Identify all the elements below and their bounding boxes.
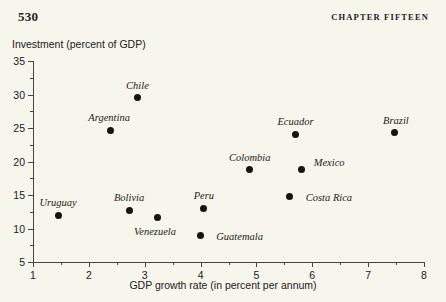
y-axis-title: Investment (percent of GDP) [12,38,146,50]
y-axis-minor-tick [30,111,33,112]
y-axis-tick [28,128,33,129]
x-axis-tick [424,262,425,267]
x-axis-tick [312,262,313,267]
x-axis-tick-label: 1 [30,269,36,281]
data-point [134,94,141,101]
x-axis-tick-label: 4 [198,269,204,281]
y-axis-tick-label: 20 [13,156,25,168]
y-axis-tick [28,95,33,96]
x-axis-tick [145,262,146,267]
data-point [126,207,133,214]
data-point-label: Peru [194,190,214,201]
y-axis-tick [28,162,33,163]
x-axis-tick-label: 8 [421,269,427,281]
data-point-label: Venezuela [134,225,176,236]
data-point-label: Colombia [229,151,270,162]
x-axis-tick [201,262,202,267]
y-axis-line [33,61,34,262]
data-point [286,193,293,200]
y-axis-minor-tick [30,145,33,146]
y-axis-tick-label: 10 [13,223,25,235]
x-axis-minor-tick [173,262,174,265]
x-axis-minor-tick [229,262,230,265]
data-point [107,127,114,134]
scatter-chart: Investment (percent of GDP) GDP growth r… [0,0,446,302]
y-axis-tick-label: 5 [19,256,25,268]
plot-area: 510152025303512345678UruguayArgentinaBol… [33,61,424,262]
data-point-label: Mexico [314,156,345,167]
data-point [200,205,207,212]
x-axis-minor-tick [340,262,341,265]
data-point-label: Guatemala [216,231,263,242]
data-point-label: Uruguay [39,197,76,208]
x-axis-tick-label: 6 [309,269,315,281]
x-axis-minor-tick [61,262,62,265]
x-axis-tick-label: 7 [365,269,371,281]
x-axis-tick-label: 2 [86,269,92,281]
textbook-page: 530 CHAPTER FIFTEEN Investment (percent … [0,0,446,302]
data-point [154,214,161,221]
data-point-label: Chile [126,79,149,90]
data-point-label: Argentina [88,112,130,123]
x-axis-tick-label: 3 [142,269,148,281]
y-axis-tick-label: 35 [13,55,25,67]
x-axis-tick-label: 5 [254,269,260,281]
y-axis-tick [28,61,33,62]
data-point-label: Ecuador [277,116,313,127]
y-axis-tick-label: 25 [13,122,25,134]
x-axis-minor-tick [117,262,118,265]
y-axis-minor-tick [30,78,33,79]
y-axis-tick [28,195,33,196]
data-point [197,232,204,239]
x-axis-minor-tick [396,262,397,265]
data-point [298,166,305,173]
y-axis-minor-tick [30,245,33,246]
y-axis-minor-tick [30,178,33,179]
data-point [292,131,299,138]
x-axis-title: GDP growth rate (in percent per annum) [0,279,446,291]
data-point-label: Bolivia [114,192,144,203]
x-axis-tick [256,262,257,267]
x-axis-tick [368,262,369,267]
x-axis-tick [33,262,34,267]
data-point-label: Costa Rica [306,192,352,203]
data-point-label: Brazil [383,114,409,125]
data-point [391,129,398,136]
data-point [246,166,253,173]
y-axis-tick [28,229,33,230]
y-axis-tick-label: 15 [13,189,25,201]
data-point [55,212,62,219]
y-axis-tick-label: 30 [13,89,25,101]
x-axis-minor-tick [284,262,285,265]
y-axis-minor-tick [30,212,33,213]
x-axis-tick [89,262,90,267]
